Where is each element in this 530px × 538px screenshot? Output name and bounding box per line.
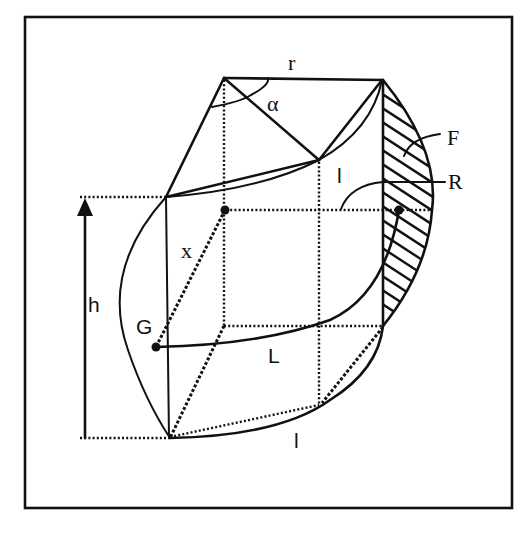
left-vertical-edge [166,197,169,438]
upper-chord [166,160,319,197]
label-r-upper: R [448,169,463,194]
dashed-right-lower [322,327,383,403]
label-l-upper: l [337,164,342,187]
arrow-up-icon [77,198,93,216]
bottom-arc [170,326,383,438]
section-outer-arc [383,80,433,326]
radius-line-r [224,78,382,80]
diagram-canvas: r α F R l x h G L l [0,0,530,538]
top-right-chord [319,80,382,160]
point-right-center [395,206,404,215]
point-top-center [221,206,230,215]
label-x: x [181,238,192,263]
centroid-arc-path [156,210,399,347]
label-r: r [288,50,296,75]
left-slant-edge [166,78,224,197]
point-g [152,343,161,352]
label-alpha: α [267,91,279,116]
label-g: G [136,315,152,338]
label-l-cap: L [268,344,280,367]
label-f: F [447,125,459,150]
label-h: h [88,293,100,316]
label-l-lower: l [294,429,299,452]
